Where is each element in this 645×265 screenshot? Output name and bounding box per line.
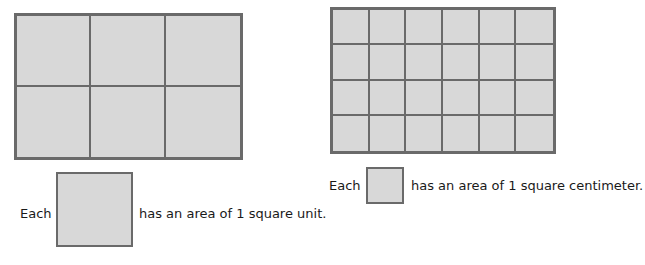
centimeter-cell (333, 45, 370, 80)
unit-cell (91, 87, 165, 158)
centimeter-cell (480, 81, 517, 116)
caption-square-centimeter: has an area of 1 square centimeter. (411, 178, 643, 193)
centimeter-cell (333, 10, 370, 45)
centimeter-cell (443, 10, 480, 45)
centimeter-cell (480, 45, 517, 80)
square-units-grid (14, 13, 243, 160)
centimeter-cell (333, 116, 370, 151)
centimeter-cell (406, 81, 443, 116)
centimeter-cell (406, 10, 443, 45)
unit-cell (166, 87, 240, 158)
centimeter-cell (443, 116, 480, 151)
unit-cell (17, 16, 91, 87)
unit-cell (166, 16, 240, 87)
centimeter-cell (370, 10, 407, 45)
centimeter-cell (516, 10, 553, 45)
unit-cell (17, 87, 91, 158)
centimeter-cell (516, 81, 553, 116)
unit-cell (91, 16, 165, 87)
centimeter-cell (370, 116, 407, 151)
square-centimeter-legend (366, 167, 404, 204)
centimeter-cell (443, 45, 480, 80)
centimeter-cell (370, 81, 407, 116)
centimeter-cell (333, 81, 370, 116)
centimeter-cell (516, 45, 553, 80)
caption-each-left: Each (20, 206, 52, 221)
square-centimeters-grid (330, 7, 556, 154)
centimeter-cell (516, 116, 553, 151)
caption-square-unit: has an area of 1 square unit. (139, 206, 326, 221)
centimeter-cell (443, 81, 480, 116)
centimeter-cell (370, 45, 407, 80)
centimeter-cell (480, 10, 517, 45)
caption-each-right: Each (329, 178, 361, 193)
square-unit-legend (56, 172, 133, 247)
centimeter-cell (480, 116, 517, 151)
centimeter-cell (406, 116, 443, 151)
centimeter-cell (406, 45, 443, 80)
